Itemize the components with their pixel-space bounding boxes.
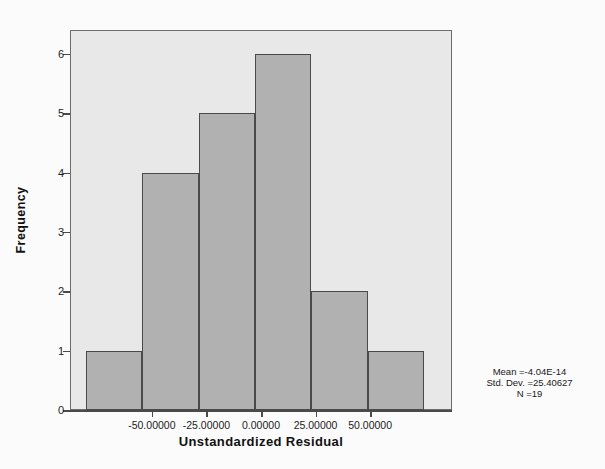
- histogram-bar: [142, 173, 198, 411]
- y-axis-tick: [63, 113, 70, 115]
- x-axis-tick: [261, 410, 263, 417]
- y-axis-tick: [63, 173, 70, 175]
- y-axis-tick: [63, 232, 70, 234]
- x-axis-tick-label: -50.00000: [128, 419, 175, 431]
- x-axis-tick-label: 50.00000: [348, 419, 392, 431]
- x-axis-tick: [316, 410, 318, 417]
- bars-layer: [70, 30, 452, 410]
- y-axis-title: Frequency: [14, 30, 28, 410]
- histogram-bar: [199, 113, 255, 410]
- y-axis-tick-label: 6: [44, 48, 64, 60]
- y-axis-tick: [63, 351, 70, 353]
- histogram-bar: [311, 291, 367, 410]
- y-axis-tick-label: 1: [44, 345, 64, 357]
- y-axis-tick: [63, 410, 70, 412]
- statistics-annotation: Mean =-4.04E-14 Std. Dev. =25.40627 N =1…: [462, 366, 597, 399]
- x-axis-title: Unstandardized Residual: [70, 434, 452, 449]
- y-axis-tick-label: 0: [44, 404, 64, 416]
- x-axis-tick: [370, 410, 372, 417]
- histogram-bar: [255, 54, 311, 410]
- x-axis-tick: [152, 410, 154, 417]
- y-axis-tick-label: 2: [44, 285, 64, 297]
- x-axis-tick-label: -25.00000: [183, 419, 230, 431]
- y-axis-tick: [63, 54, 70, 56]
- y-axis-tick: [63, 291, 70, 293]
- stat-mean: Mean =-4.04E-14: [462, 366, 597, 377]
- x-axis-tick: [206, 410, 208, 417]
- stat-n: N =19: [462, 388, 597, 399]
- histogram-chart: Frequency Unstandardized Residual Mean =…: [0, 0, 605, 469]
- y-axis-tick-label: 4: [44, 167, 64, 179]
- histogram-bar: [368, 351, 424, 410]
- x-axis-tick-label: 25.00000: [294, 419, 338, 431]
- histogram-bar: [86, 351, 142, 410]
- y-axis-tick-label: 5: [44, 107, 64, 119]
- y-axis-tick-label: 3: [44, 226, 64, 238]
- x-axis-tick-label: 0.00000: [242, 419, 280, 431]
- stat-std-dev: Std. Dev. =25.40627: [462, 377, 597, 388]
